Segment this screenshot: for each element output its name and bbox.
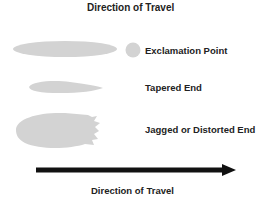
diagram-shapes: [0, 0, 262, 211]
tapered-shape: [29, 81, 103, 93]
arrow-label: Direction of Travel: [91, 185, 174, 196]
label-tapered-end: Tapered End: [145, 82, 202, 93]
exclamation-ellipse: [13, 41, 117, 57]
jagged-shape: [16, 113, 100, 148]
label-jagged-end: Jagged or Distorted End: [145, 124, 255, 135]
direction-arrow: [36, 164, 236, 176]
label-exclamation-point: Exclamation Point: [145, 45, 227, 56]
exclamation-dot: [126, 43, 141, 58]
